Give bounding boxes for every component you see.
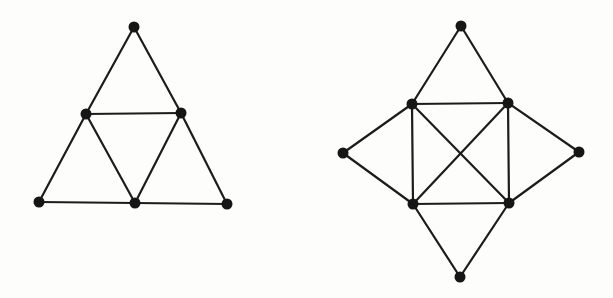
graph-edge-mid-right--bottom-mid — [135, 113, 181, 203]
graph-edge-apex--mid-right — [134, 27, 181, 113]
graph-edge-bottom-apex--inner-bottom-left — [413, 204, 460, 277]
graph-edge-mid-left--mid-right — [86, 113, 181, 114]
graph-edge-outer-right--inner-bottom-right — [509, 152, 579, 203]
graph-edge-top-apex--inner-top-left — [412, 26, 461, 104]
graph-edge-inner-top-right--inner-bottom-right — [508, 103, 509, 203]
graph-node-bottom-right — [222, 199, 233, 210]
graph-node-inner-top-left — [407, 99, 418, 110]
graph-node-mid-right — [176, 108, 187, 119]
graph-node-inner-bottom-left — [408, 199, 419, 210]
graph-edge-outer-right--inner-top-right — [508, 103, 579, 152]
triangulated-triangle-graph — [34, 22, 233, 210]
graph-node-mid-left — [81, 109, 92, 120]
graph-edge-outer-left--inner-bottom-left — [343, 153, 413, 204]
graph-node-bottom-apex — [455, 272, 466, 283]
graph-canvas — [0, 0, 613, 298]
graph-edge-apex--mid-left — [86, 27, 134, 114]
graph-edge-inner-bottom-left--inner-top-left — [412, 104, 413, 204]
graph-edge-mid-left--bottom-left — [39, 114, 86, 202]
scanned-diagram-page — [0, 0, 613, 298]
graph-node-inner-top-right — [503, 98, 514, 109]
square-k4-with-spikes-graph — [338, 21, 585, 283]
graph-edge-inner-bottom-right--inner-bottom-left — [413, 203, 509, 204]
graph-edge-mid-left--bottom-mid — [86, 114, 135, 203]
graph-edge-top-apex--inner-top-right — [461, 26, 508, 103]
graph-edge-mid-right--bottom-right — [181, 113, 227, 204]
graph-node-outer-right — [574, 147, 585, 158]
graph-edge-outer-left--inner-top-left — [343, 104, 412, 153]
graph-node-inner-bottom-right — [504, 198, 515, 209]
graph-edge-bottom-left--bottom-mid — [39, 202, 135, 203]
graph-node-bottom-left — [34, 197, 45, 208]
graph-node-top-apex — [456, 21, 467, 32]
graph-edge-inner-top-left--inner-top-right — [412, 103, 508, 104]
graph-edge-bottom-apex--inner-bottom-right — [460, 203, 509, 277]
graph-node-outer-left — [338, 148, 349, 159]
graph-node-bottom-mid — [130, 198, 141, 209]
graph-edge-bottom-mid--bottom-right — [135, 203, 227, 204]
graph-node-apex — [129, 22, 140, 33]
